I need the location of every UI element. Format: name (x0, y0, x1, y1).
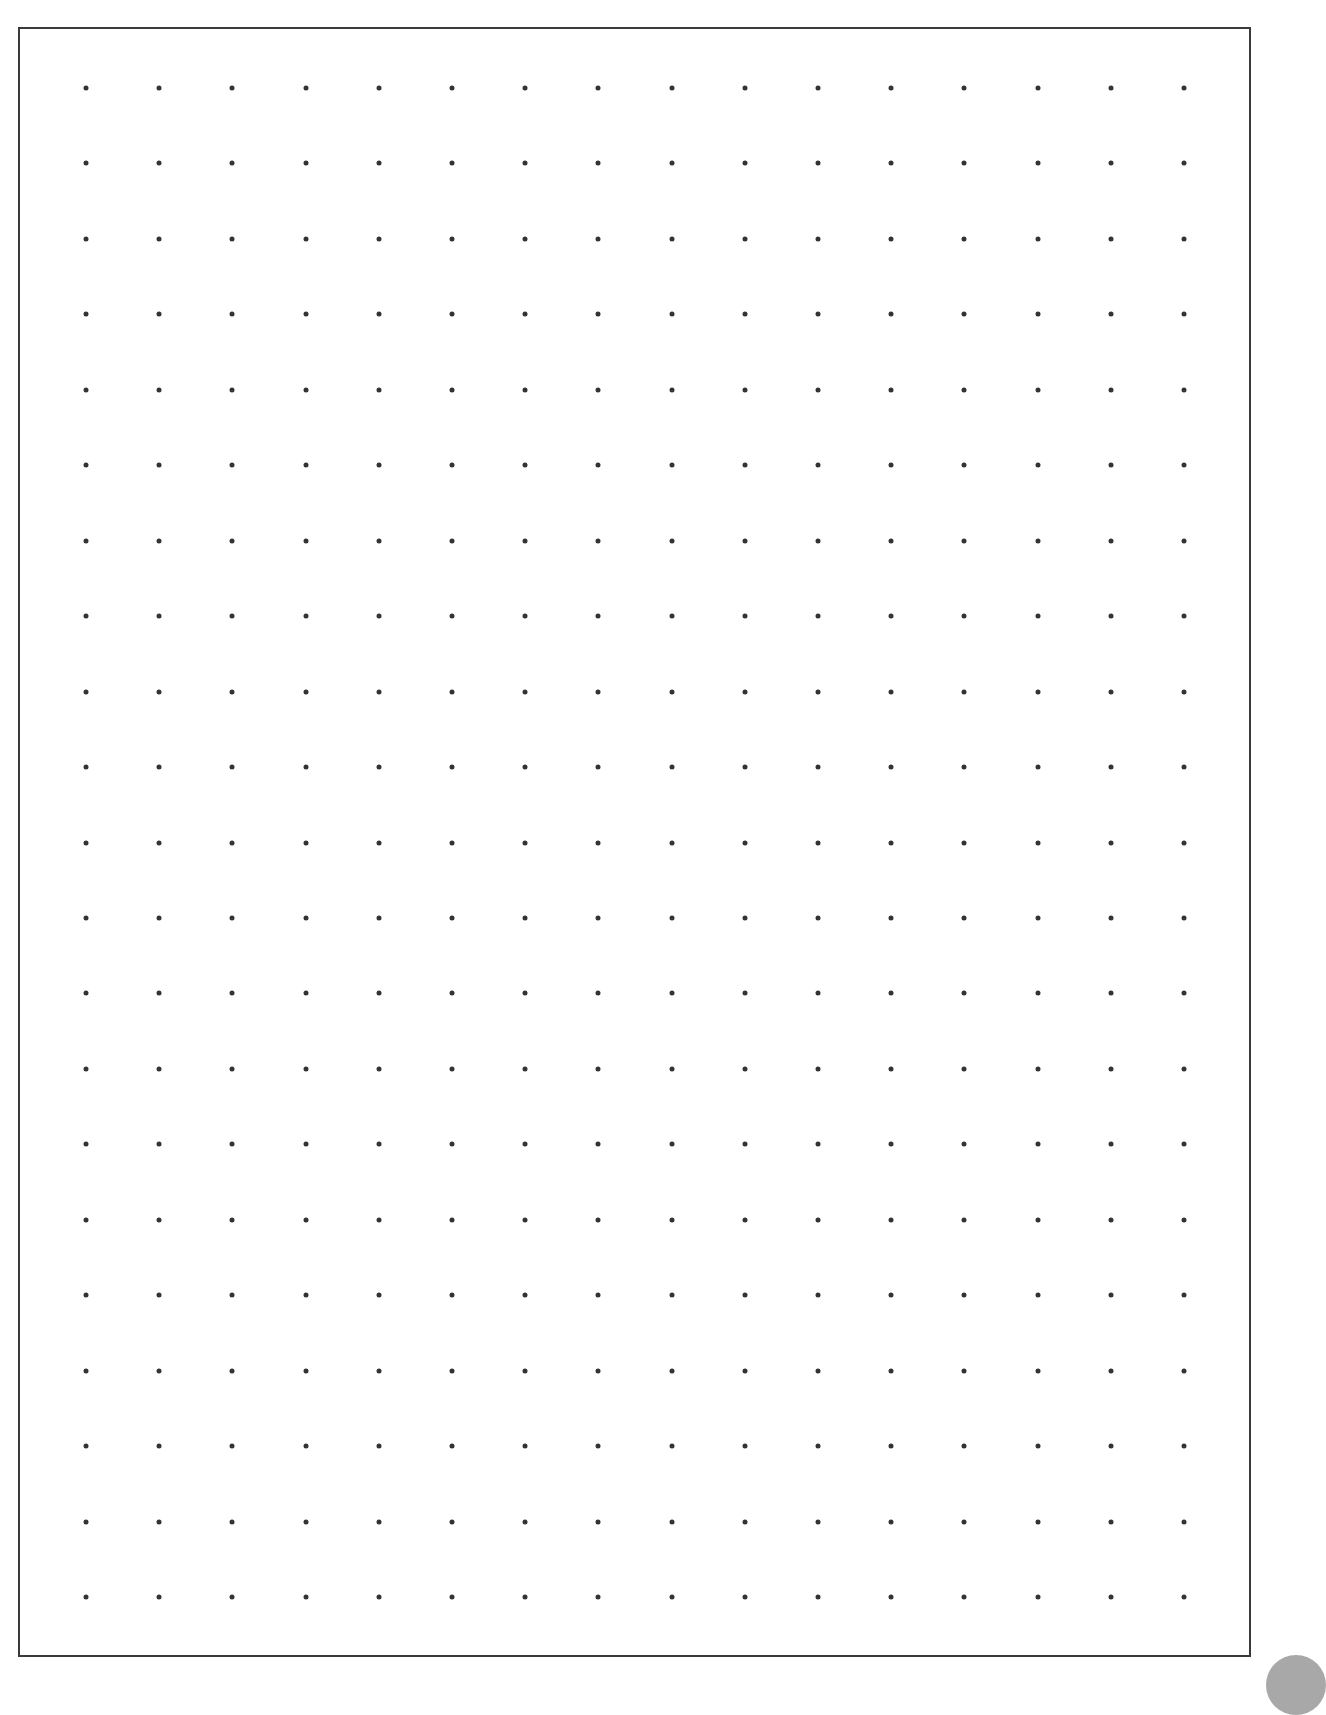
grid-dot (303, 614, 308, 619)
grid-dot (742, 463, 747, 468)
grid-dot (1035, 614, 1040, 619)
grid-dot (303, 1217, 308, 1222)
grid-dot (230, 1066, 235, 1071)
grid-dot (742, 915, 747, 920)
grid-dot (303, 1368, 308, 1373)
grid-dot (376, 538, 381, 543)
grid-dot (84, 161, 89, 166)
grid-dot (669, 1066, 674, 1071)
grid-dot (523, 614, 528, 619)
grid-dot (157, 840, 162, 845)
grid-dot (376, 387, 381, 392)
grid-dot (596, 991, 601, 996)
grid-dot (450, 840, 455, 845)
grid-dot (1108, 765, 1113, 770)
grid-dot (816, 387, 821, 392)
grid-dot (1035, 689, 1040, 694)
grid-dot (376, 1066, 381, 1071)
grid-dot (157, 1368, 162, 1373)
grid-dot (1108, 689, 1113, 694)
grid-dot (84, 1368, 89, 1373)
grid-dot (157, 1293, 162, 1298)
grid-dot (742, 840, 747, 845)
grid-dot (84, 840, 89, 845)
grid-dot (1182, 463, 1187, 468)
grid-dot (742, 312, 747, 317)
grid-dot (1035, 1519, 1040, 1524)
grid-dot (962, 689, 967, 694)
grid-dot (450, 312, 455, 317)
grid-dot (450, 463, 455, 468)
grid-dot (816, 161, 821, 166)
grid-dot (1182, 765, 1187, 770)
grid-dot (742, 1368, 747, 1373)
grid-dot (450, 1142, 455, 1147)
grid-dot (230, 915, 235, 920)
grid-dot (230, 765, 235, 770)
grid-dot (157, 463, 162, 468)
grid-dot (669, 614, 674, 619)
grid-dot (303, 1595, 308, 1600)
grid-dot (1035, 1217, 1040, 1222)
grid-dot (157, 689, 162, 694)
grid-dot (889, 161, 894, 166)
grid-dot (596, 1217, 601, 1222)
grid-dot (1182, 1519, 1187, 1524)
grid-dot (230, 236, 235, 241)
grid-dot (889, 1595, 894, 1600)
grid-dot (84, 312, 89, 317)
grid-dot (962, 1519, 967, 1524)
grid-dot (1182, 161, 1187, 166)
grid-dot (157, 1217, 162, 1222)
grid-dot (669, 463, 674, 468)
grid-dot (376, 1595, 381, 1600)
grid-dot (376, 1444, 381, 1449)
grid-dot (669, 1217, 674, 1222)
grid-dot (816, 1142, 821, 1147)
grid-dot (1035, 1293, 1040, 1298)
grid-dot (303, 765, 308, 770)
grid-dot (84, 1142, 89, 1147)
grid-dot (230, 614, 235, 619)
grid-dot (596, 765, 601, 770)
grid-dot (450, 614, 455, 619)
grid-dot (230, 991, 235, 996)
grid-dot (742, 765, 747, 770)
grid-dot (816, 86, 821, 91)
grid-dot (376, 614, 381, 619)
grid-dot (303, 915, 308, 920)
grid-dot (889, 1066, 894, 1071)
grid-dot (1182, 1368, 1187, 1373)
grid-dot (84, 236, 89, 241)
grid-dot (303, 161, 308, 166)
grid-dot (376, 312, 381, 317)
grid-dot (889, 1444, 894, 1449)
grid-dot (523, 689, 528, 694)
grid-dot (596, 387, 601, 392)
grid-dot (669, 915, 674, 920)
grid-dot (450, 387, 455, 392)
grid-dot (962, 1444, 967, 1449)
grid-dot (303, 236, 308, 241)
grid-dot (962, 840, 967, 845)
grid-dot (889, 840, 894, 845)
grid-dot (1182, 915, 1187, 920)
grid-dot (889, 915, 894, 920)
grid-dot (889, 538, 894, 543)
grid-dot (962, 1293, 967, 1298)
grid-dot (303, 1519, 308, 1524)
grid-dot (816, 463, 821, 468)
grid-dot (962, 387, 967, 392)
grid-dot (157, 991, 162, 996)
grid-dot (962, 463, 967, 468)
grid-dot (523, 1519, 528, 1524)
grid-dot (84, 765, 89, 770)
grid-dot (376, 161, 381, 166)
grid-dot (596, 1444, 601, 1449)
grid-dot (230, 387, 235, 392)
grid-dot (816, 840, 821, 845)
grid-dot (157, 1142, 162, 1147)
grid-dot (816, 689, 821, 694)
grid-dot (1108, 387, 1113, 392)
